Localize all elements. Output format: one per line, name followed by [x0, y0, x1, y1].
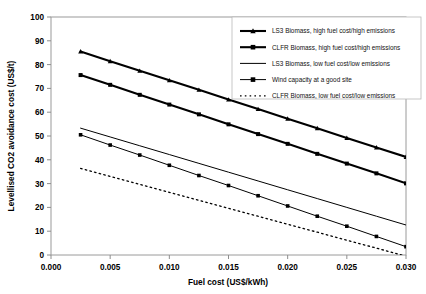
chart-figure: 0102030405060708090100 0.0000.0050.0100.…	[0, 0, 426, 294]
x-tick-label: 0.015	[218, 263, 239, 272]
data-point-marker	[227, 184, 231, 188]
y-tick-label: 20	[35, 203, 45, 212]
data-point-marker	[138, 153, 142, 157]
data-point-marker	[286, 204, 290, 208]
legend-label: CLFR Biomass, high fuel cost/high emissi…	[272, 44, 400, 52]
data-point-marker	[375, 235, 379, 239]
x-tick-label: 0.030	[396, 263, 417, 272]
data-point-marker	[168, 163, 172, 167]
data-point-marker	[374, 171, 378, 175]
x-tick-label: 0.010	[159, 263, 180, 272]
data-point-marker	[108, 83, 112, 87]
data-point-marker	[345, 224, 349, 228]
data-point-marker	[315, 214, 319, 218]
data-point-marker	[345, 162, 349, 166]
legend-marker	[251, 77, 256, 82]
legend-label: Wind capacity at a good site	[272, 76, 352, 84]
y-axis-title: Levellised CO2 avoidance cost (US$/t)	[6, 60, 16, 211]
data-point-marker	[286, 142, 290, 146]
data-point-marker	[138, 93, 142, 97]
chart-legend: LS3 Biomass, high fuel cost/high emissio…	[232, 17, 421, 99]
data-point-marker	[315, 152, 319, 156]
legend-label: LS3 Biomass, high fuel cost/high emissio…	[272, 27, 395, 35]
legend-label: CLFR Biomass, low fuel cost/low emission…	[272, 92, 395, 99]
data-point-marker	[108, 143, 112, 147]
y-tick-label: 50	[35, 132, 45, 141]
data-point-marker	[227, 122, 231, 126]
data-point-marker	[167, 103, 171, 107]
data-point-marker	[79, 133, 83, 137]
data-point-marker	[256, 132, 260, 136]
legend-marker	[251, 45, 256, 50]
y-tick-label: 0	[39, 251, 44, 260]
y-tick-label: 30	[35, 180, 45, 189]
data-point-marker	[79, 73, 83, 77]
data-point-marker	[197, 112, 201, 116]
x-tick-label: 0.005	[100, 263, 121, 272]
y-tick-label: 60	[35, 108, 45, 117]
y-tick-label: 40	[35, 156, 45, 165]
y-tick-label: 10	[35, 227, 45, 236]
x-tick-label: 0.020	[277, 263, 298, 272]
x-axis-title: Fuel cost (US$/kWh)	[188, 277, 268, 287]
legend-label: LS3 Biomass, low fuel cost/low emissions	[272, 60, 390, 67]
data-point-marker	[197, 174, 201, 178]
y-tick-label: 90	[35, 37, 45, 46]
y-tick-label: 80	[35, 61, 45, 70]
data-point-marker	[256, 194, 260, 198]
line-chart: 0102030405060708090100 0.0000.0050.0100.…	[0, 0, 426, 294]
x-tick-label: 0.025	[337, 263, 358, 272]
y-tick-label: 70	[35, 84, 45, 93]
x-tick-label: 0.000	[41, 263, 62, 272]
y-tick-label: 100	[30, 13, 44, 22]
